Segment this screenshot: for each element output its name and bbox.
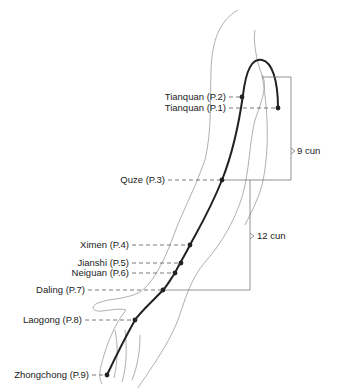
acupoint-label: Ximen (P.4) (80, 240, 129, 250)
acupoint-label: Daling (P.7) (36, 285, 85, 295)
acupoint-dot (240, 95, 245, 100)
acupoint-label: Tianquan (P.2) (165, 92, 226, 102)
arm-outline (93, 10, 267, 388)
acupoint-dot (133, 318, 138, 323)
acupoint-dot (105, 373, 110, 378)
acupoint-dot (173, 271, 178, 276)
acupoint-label: Quze (P.3) (120, 175, 165, 185)
measurement-label: 9 cun (297, 146, 320, 156)
acupoint-dot (188, 243, 193, 248)
acupoint-dot (179, 261, 184, 266)
measurement-label: 12 cun (257, 231, 286, 241)
acupoint-label: Laogong (P.8) (23, 315, 82, 325)
acupoint-dot (220, 178, 225, 183)
acupoint-dot (161, 288, 166, 293)
leader-lines (85, 97, 278, 375)
meridian-diagram (0, 0, 337, 389)
acupoint-dot (276, 106, 281, 111)
acupoint-label: Zhongchong (P.9) (14, 370, 89, 380)
acupoint-label: Neiguan (P.6) (72, 268, 129, 278)
acupoint-label: Tianquan (P.1) (165, 103, 226, 113)
